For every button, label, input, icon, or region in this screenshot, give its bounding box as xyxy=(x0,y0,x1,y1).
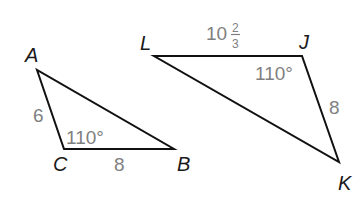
triangle-abc xyxy=(37,70,174,149)
vertex-label-j: J xyxy=(298,31,310,53)
vertex-label-k: K xyxy=(338,172,353,194)
diagram-canvas: A C B 6 110° 8 L J K 10 2 3 110° 8 xyxy=(0,0,363,199)
vertex-label-l: L xyxy=(140,32,151,54)
angle-j-measure: 110° xyxy=(255,63,293,84)
angle-c-measure: 110° xyxy=(66,127,104,148)
side-ac-length: 6 xyxy=(33,105,44,126)
triangle-ljk xyxy=(154,56,339,162)
vertex-label-a: A xyxy=(24,44,38,66)
side-cb-length: 8 xyxy=(114,154,125,175)
side-lj-denominator: 3 xyxy=(232,37,239,51)
vertex-label-c: C xyxy=(53,153,68,175)
side-lj-whole: 10 xyxy=(206,23,227,44)
side-jk-length: 8 xyxy=(329,97,340,118)
side-lj-numerator: 2 xyxy=(232,21,239,35)
side-lj-length: 10 2 3 xyxy=(206,21,240,51)
vertex-label-b: B xyxy=(177,153,190,175)
